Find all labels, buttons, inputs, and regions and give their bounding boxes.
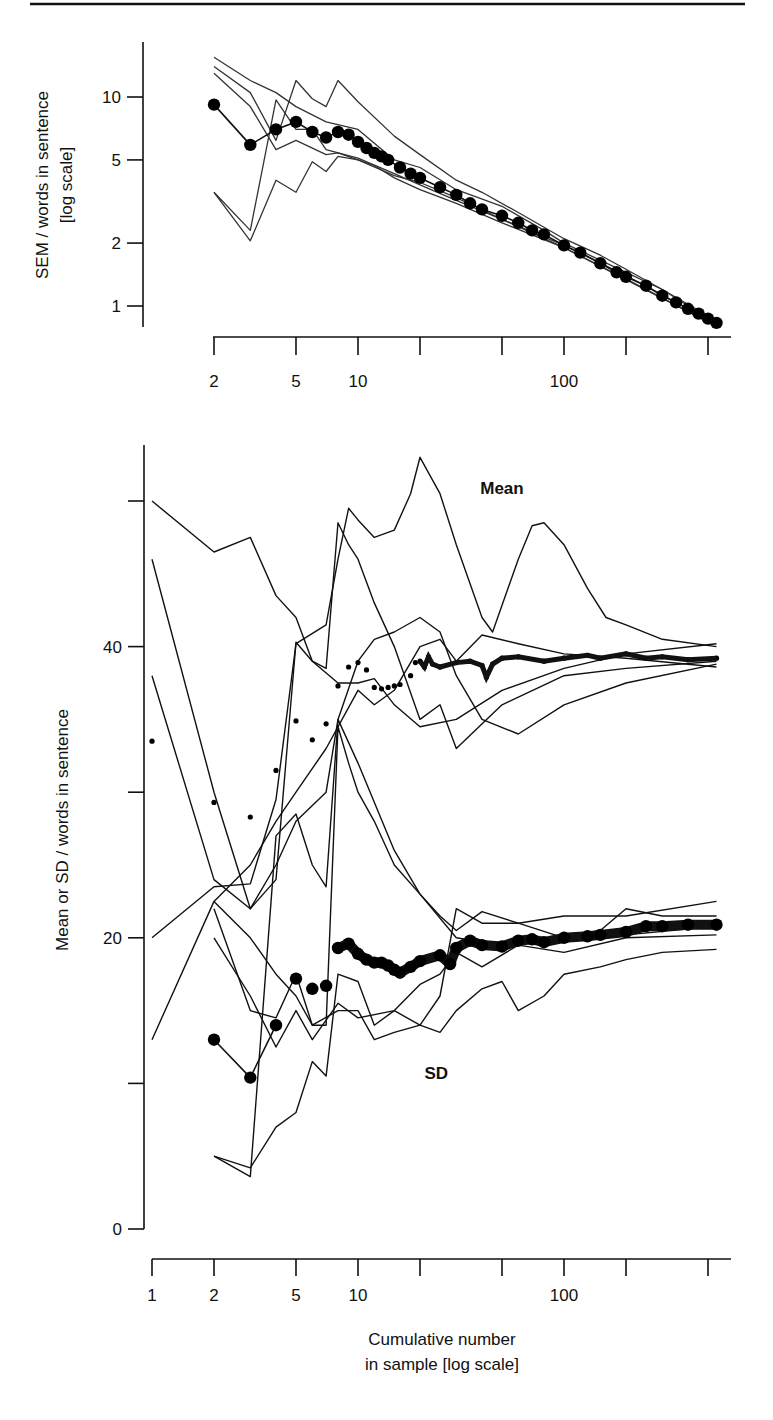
sd-sample-trace (214, 901, 717, 1039)
sd-data-point (450, 942, 462, 954)
sd-highlight-line (214, 1025, 276, 1077)
mean-sample-trace (152, 501, 717, 727)
mean-data-point (324, 721, 329, 726)
mean-sd-y-ticks: 02040 (103, 501, 144, 1239)
sem-data-point (290, 116, 302, 128)
mean-sd-x-axis-label-line2: in sample [log scale] (365, 1355, 519, 1374)
sd-data-point (208, 1034, 220, 1046)
sd-data-point (414, 955, 426, 967)
sem-data-point (208, 98, 220, 110)
sd-data-point (656, 920, 668, 932)
sd-sample-trace (214, 727, 717, 1025)
mean-data-point (248, 814, 253, 819)
mean-data-point (346, 664, 351, 669)
x-tick-label: 1 (147, 1286, 156, 1305)
x-tick-label: 2 (209, 372, 218, 391)
sem-data-point (270, 123, 282, 135)
mean-sd-y-axis-label: Mean or SD / words in sentence (53, 709, 72, 951)
y-tick-label: 2 (112, 234, 121, 253)
sem-data-point (512, 217, 524, 229)
y-tick-label: 0 (113, 1220, 122, 1239)
y-tick-label: 10 (102, 88, 121, 107)
sd-data-point (290, 972, 302, 984)
sem-data-point (496, 210, 508, 222)
sd-data-point (512, 935, 524, 947)
x-tick-label: 10 (349, 1286, 368, 1305)
sem-data-point (670, 296, 682, 308)
mean-data-point (211, 800, 216, 805)
mean-highlight-trace (149, 651, 719, 819)
mean-sample-trace (152, 523, 717, 909)
sem-highlight-trace (208, 98, 723, 329)
mean-data-point (364, 667, 369, 672)
mean-data-point (386, 685, 391, 690)
sd-data-point (332, 942, 344, 954)
sem-data-point (682, 303, 694, 315)
sem-data-point (394, 161, 406, 173)
mean-data-point (379, 686, 384, 691)
mean-sample-trace (152, 635, 717, 1040)
mean-data-point (408, 673, 413, 678)
sem-data-point (382, 154, 394, 166)
mean-sample-trace (152, 559, 717, 909)
sem-data-point (526, 224, 538, 236)
sd-data-point (434, 949, 446, 961)
sem-data-point (538, 228, 550, 240)
sd-data-point (710, 919, 722, 931)
sem-data-point (414, 172, 426, 184)
sd-data-point (620, 926, 632, 938)
sd-data-point (581, 930, 593, 942)
x-tick-label: 5 (291, 1286, 300, 1305)
sem-data-point (450, 189, 462, 201)
sd-data-point (320, 980, 332, 992)
sem-data-point (656, 290, 668, 302)
sd-data-point (640, 920, 652, 932)
sem-sample-trace (214, 156, 717, 326)
sd-data-point (394, 967, 406, 979)
sd-data-point (270, 1019, 282, 1031)
sem-y-ticks: 12510 (102, 88, 143, 316)
sem-y-axis-label-line2: [log scale] (57, 147, 76, 224)
sem-data-point (710, 317, 722, 329)
sd-data-point (342, 937, 354, 949)
mean-data-point (372, 685, 377, 690)
sd-data-point (306, 983, 318, 995)
mean-sd-x-axis-label: Cumulative number (368, 1330, 516, 1349)
sem-y-axis-label: SEM / words in sentence (33, 91, 52, 279)
sd-data-point (558, 932, 570, 944)
sem-data-point (332, 126, 344, 138)
x-tick-label: 100 (550, 372, 578, 391)
sem-sample-trace (214, 100, 717, 326)
sem-x-ticks: 2510100 (209, 337, 708, 391)
sd-data-point (526, 933, 538, 945)
sd-sample-trace (214, 935, 717, 1047)
sem-data-point (620, 271, 632, 283)
sd-data-point (594, 929, 606, 941)
x-tick-label: 100 (550, 1286, 578, 1305)
sd-sample-trace (214, 949, 717, 1167)
mean-data-point (413, 660, 418, 665)
sem-highlight-line (214, 105, 717, 323)
mean-data-point (310, 737, 315, 742)
mean-data-point (149, 739, 154, 744)
sem-data-point (464, 197, 476, 209)
sd-data-point (464, 935, 476, 947)
y-tick-label: 20 (103, 929, 122, 948)
sd-annotation: SD (425, 1064, 449, 1083)
sem-data-point (640, 280, 652, 292)
sem-data-point (594, 257, 606, 269)
sem-data-point (434, 181, 446, 193)
x-tick-label: 5 (291, 372, 300, 391)
sd-data-point (496, 940, 508, 952)
y-tick-label: 5 (112, 151, 121, 170)
sem-chart: 12510 2510100 SEM / words in sentence [l… (33, 42, 731, 391)
mean-sd-x-ticks: 12510100 (147, 1259, 708, 1305)
sem-data-point (558, 239, 570, 251)
figure-canvas: 12510 2510100 SEM / words in sentence [l… (0, 0, 773, 1420)
y-tick-label: 40 (103, 638, 122, 657)
mean-data-point (293, 718, 298, 723)
mean-data-point (273, 768, 278, 773)
mean-data-point (397, 682, 402, 687)
sd-data-point (538, 936, 550, 948)
sem-data-point (306, 126, 318, 138)
